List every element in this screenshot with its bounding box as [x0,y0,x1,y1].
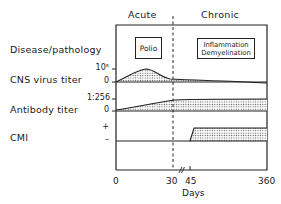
x-tick-30: 30 [166,176,177,186]
disease-box-inflammation: Inflammation Demyelination [197,38,255,59]
inflammation-text: Inflammation [203,41,248,49]
antibody-curve [116,99,267,111]
disease-box-polio: Polio [135,37,162,59]
cmi-step [190,128,267,141]
timeline-diagram [0,0,281,204]
x-axis-label: Days [182,188,204,198]
x-tick-45: 45 [185,176,196,186]
x-tick-0: 0 [113,176,119,186]
demyelination-text: Demyelination [201,49,251,57]
polio-text: Polio [140,44,158,53]
x-tick-360: 360 [258,176,275,186]
